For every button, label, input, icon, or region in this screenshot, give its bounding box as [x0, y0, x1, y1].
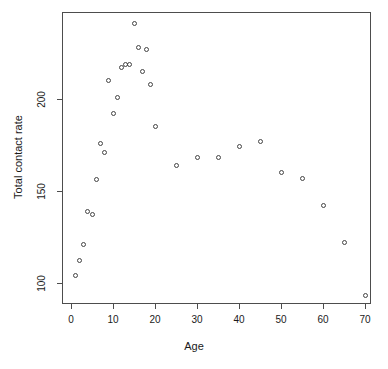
x-axis-tick-label: 60: [308, 314, 338, 325]
x-axis-tick: [239, 304, 240, 309]
x-axis-tick: [323, 304, 324, 309]
y-axis-label-wrapper: Total contact rate: [0, 0, 1, 1]
y-axis-tick: [57, 191, 62, 192]
x-axis-tick-label: 10: [98, 314, 128, 325]
x-axis-label: Age: [0, 340, 388, 352]
y-axis-label: Total contact rate: [12, 97, 24, 217]
y-axis-tick-label: 200: [36, 86, 47, 112]
x-axis-tick-label: 30: [182, 314, 212, 325]
x-axis-tick-label: 50: [266, 314, 296, 325]
x-axis-tick-label: 0: [56, 314, 86, 325]
x-axis-tick-label: 70: [350, 314, 380, 325]
scatter-plot-figure: 010203040506070100150200 Age Total conta…: [0, 0, 388, 369]
x-axis-tick-label: 40: [224, 314, 254, 325]
x-axis-tick: [281, 304, 282, 309]
x-axis-tick: [71, 304, 72, 309]
y-axis-tick: [57, 283, 62, 284]
x-axis-tick: [365, 304, 366, 309]
x-axis-tick-label: 20: [140, 314, 170, 325]
x-axis-tick: [197, 304, 198, 309]
y-axis-tick-label: 100: [36, 270, 47, 296]
plot-frame: [62, 12, 371, 304]
x-axis-tick: [113, 304, 114, 309]
x-axis-tick: [155, 304, 156, 309]
y-axis-tick-label: 150: [36, 178, 47, 204]
y-axis-tick: [57, 99, 62, 100]
